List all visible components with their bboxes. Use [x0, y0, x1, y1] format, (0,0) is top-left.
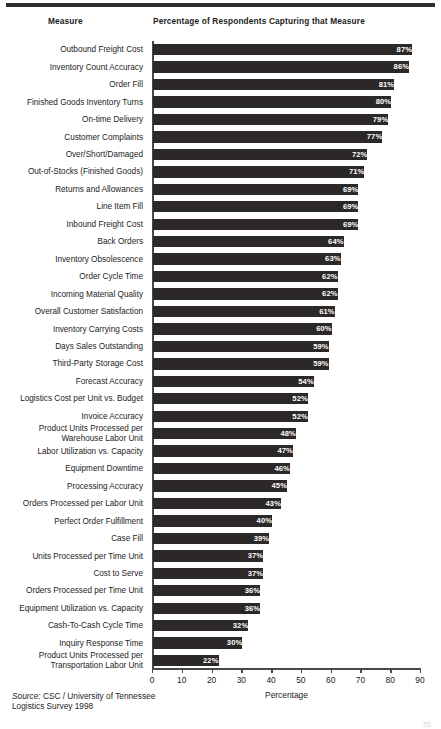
category-label: Forecast Accuracy: [0, 377, 143, 386]
source-note: Source: CSC / University of Tennessee Lo…: [12, 691, 187, 712]
bar-row: 52%: [152, 390, 420, 407]
x-axis-tick-label: 20: [207, 675, 216, 685]
category-label: Finished Goods Inventory Turns: [0, 98, 143, 107]
category-label: Days Sales Outstanding: [0, 342, 143, 351]
bar-value-label: 37%: [153, 550, 266, 561]
bar-value-label: 59%: [153, 358, 332, 369]
chart-page: Measure Percentage of Respondents Captur…: [0, 0, 441, 729]
bar-value-label: 69%: [153, 201, 361, 212]
bar-value-label: 81%: [153, 79, 397, 90]
x-axis-tick-label: 30: [237, 675, 246, 685]
category-label: Inbound Freight Cost: [0, 220, 143, 229]
bar-value-label: 62%: [153, 288, 341, 299]
x-axis-title: Percentage: [152, 690, 421, 700]
bar-value-label: 69%: [153, 219, 361, 230]
bar-value-label: 52%: [153, 393, 311, 404]
bar-row: 22%: [152, 652, 420, 669]
bar-row: 45%: [152, 477, 420, 494]
category-label: Cost to Serve: [0, 569, 143, 578]
category-label: Equipment Downtime: [0, 464, 143, 473]
x-axis-tick: [360, 668, 361, 673]
category-label: Over/Short/Damaged: [0, 150, 143, 159]
category-label: Outbound Freight Cost: [0, 45, 143, 54]
category-label: Orders Processed per Time Unit: [0, 586, 143, 595]
bar-value-label: 48%: [153, 428, 299, 439]
plot-area: 87%86%81%80%79%77%72%71%69%69%69%64%63%6…: [152, 41, 420, 668]
x-axis-tick-label: 60: [326, 675, 335, 685]
bar-value-label: 61%: [153, 306, 338, 317]
category-label: Overall Customer Satisfaction: [0, 307, 143, 316]
bar-row: 69%: [152, 198, 420, 215]
bar-value-label: 80%: [153, 96, 394, 107]
bar-value-label: 54%: [153, 376, 317, 387]
category-label: Orders Processed per Labor Unit: [0, 499, 143, 508]
bar-value-label: 72%: [153, 149, 370, 160]
category-label: Inquiry Response Time: [0, 639, 143, 648]
category-label: Product Units Processed per Transportati…: [0, 651, 143, 670]
x-axis-tick-label: 90: [415, 675, 424, 685]
bar-row: 54%: [152, 373, 420, 390]
bar-row: 64%: [152, 233, 420, 250]
top-divider-rule: [6, 3, 435, 7]
bar-row: 48%: [152, 425, 420, 442]
category-label: Incoming Material Quality: [0, 290, 143, 299]
category-label: Units Processed per Time Unit: [0, 552, 143, 561]
x-axis-tick: [152, 668, 153, 673]
x-axis-tick: [390, 668, 391, 673]
category-label: Out-of-Stocks (Finished Goods): [0, 167, 143, 176]
bar-value-label: 69%: [153, 184, 361, 195]
bar-row: 86%: [152, 58, 420, 75]
bar-row: 80%: [152, 93, 420, 110]
x-axis-tick-label: 0: [150, 675, 155, 685]
bar-value-label: 52%: [153, 411, 311, 422]
bar-row: 39%: [152, 530, 420, 547]
category-label: Returns and Allowances: [0, 185, 143, 194]
bar-row: 81%: [152, 76, 420, 93]
bar-row: 77%: [152, 128, 420, 145]
x-axis-tick: [331, 668, 332, 673]
bar-value-label: 45%: [153, 480, 290, 491]
bar-row: 36%: [152, 600, 420, 617]
bar-value-label: 32%: [153, 620, 251, 631]
x-axis-tick: [241, 668, 242, 673]
x-axis-tick: [420, 668, 421, 673]
bar-row: 32%: [152, 617, 420, 634]
bar-row: 40%: [152, 512, 420, 529]
bar-value-label: 47%: [153, 445, 296, 456]
column-header-percentage: Percentage of Respondents Capturing that…: [153, 16, 365, 26]
bar-value-label: 46%: [153, 463, 293, 474]
category-label: Logistics Cost per Unit vs. Budget: [0, 394, 143, 403]
bar-value-label: 43%: [153, 498, 284, 509]
bar-row: 46%: [152, 460, 420, 477]
x-axis-tick-label: 80: [386, 675, 395, 685]
bar-rows: 87%86%81%80%79%77%72%71%69%69%69%64%63%6…: [152, 41, 420, 669]
column-header-measure: Measure: [48, 16, 83, 26]
category-label: Invoice Accuracy: [0, 412, 143, 421]
bar-value-label: 59%: [153, 341, 332, 352]
bar-row: 52%: [152, 408, 420, 425]
bar-row: 61%: [152, 303, 420, 320]
category-label: Perfect Order Fulfillment: [0, 517, 143, 526]
bar-value-label: 39%: [153, 533, 272, 544]
x-axis-tick-label: 50: [296, 675, 305, 685]
category-label: Processing Accuracy: [0, 482, 143, 491]
bar-row: 79%: [152, 111, 420, 128]
bar-row: 62%: [152, 285, 420, 302]
category-label: Inventory Count Accuracy: [0, 63, 143, 72]
bar-value-label: 37%: [153, 568, 266, 579]
x-axis-tick: [301, 668, 302, 673]
bar-row: 69%: [152, 216, 420, 233]
bar-value-label: 22%: [153, 655, 222, 666]
category-label: Case Fill: [0, 534, 143, 543]
x-axis-tick: [212, 668, 213, 673]
x-axis-tick: [271, 668, 272, 673]
bar-value-label: 64%: [153, 236, 347, 247]
bar-row: 72%: [152, 146, 420, 163]
category-label: Labor Utilization vs. Capacity: [0, 447, 143, 456]
category-label: Order Cycle Time: [0, 272, 143, 281]
bar-value-label: 30%: [153, 637, 245, 648]
category-label: Customer Complaints: [0, 133, 143, 142]
bar-row: 87%: [152, 41, 420, 58]
bar-row: 69%: [152, 181, 420, 198]
bar-value-label: 62%: [153, 271, 341, 282]
